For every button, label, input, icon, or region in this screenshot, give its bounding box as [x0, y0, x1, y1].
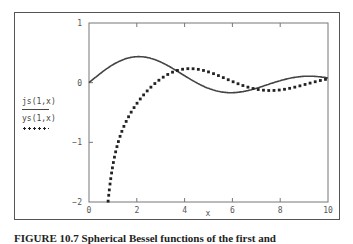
y-tick-label: −2 [72, 198, 82, 207]
legend-label-js: js(1,x) [22, 96, 56, 107]
plot-area [89, 23, 328, 202]
y-tick-label: 0 [77, 79, 82, 88]
x-axis-label: x [206, 209, 211, 218]
y-tick-label: 1 [77, 19, 82, 28]
y-tick-label: −1 [72, 138, 82, 147]
x-tick-label: 4 [182, 206, 187, 215]
series-js-line [89, 57, 328, 93]
figure-caption: FIGURE 10.7 Spherical Bessel functions o… [14, 232, 276, 244]
legend-dotted-line-icon [22, 127, 49, 130]
series-ys-dots [107, 67, 327, 202]
axis-tick-labels: 024681010−1−2 [72, 19, 333, 215]
x-tick-label: 6 [230, 206, 235, 215]
x-tick-label: 10 [323, 206, 333, 215]
x-tick-label: 0 [87, 206, 92, 215]
x-tick-label: 8 [278, 206, 283, 215]
legend-solid-line-icon [22, 109, 49, 110]
axis-ticks [89, 23, 280, 202]
legend: js(1,x) ys(1,x) [22, 96, 56, 130]
legend-label-ys: ys(1,x) [22, 113, 56, 124]
x-tick-label: 2 [134, 206, 139, 215]
